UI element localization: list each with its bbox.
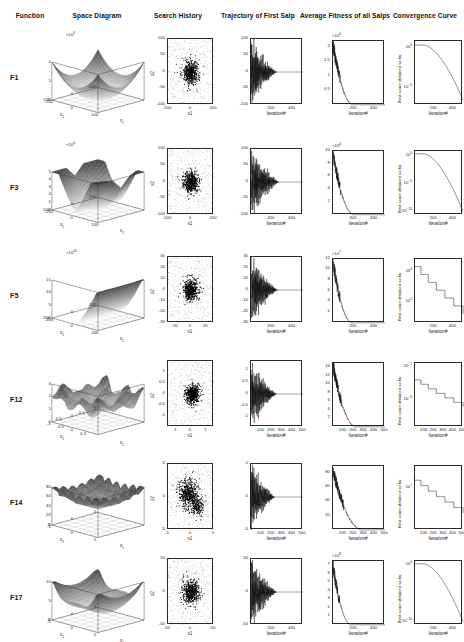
space-diagram-ytick: 0: [61, 202, 73, 206]
function-label-f14: F14: [10, 499, 23, 506]
average-fitness-ytick: 1.5: [310, 58, 330, 62]
space-diagram-ytick: -1: [84, 407, 96, 411]
trajectory-ytick: -50: [228, 85, 248, 89]
trajectory-xlabel: Iteration#: [250, 537, 302, 542]
trajectory-plot-area: [250, 463, 302, 529]
space-diagram-ytick: 100: [38, 98, 50, 102]
space-diagram-xtick: 0: [66, 216, 78, 220]
search-history-ylabel: x2: [151, 393, 156, 398]
average-fitness-ytick: 12: [310, 256, 330, 260]
search-history-f12: -1-0.500.51-101x1x2: [148, 356, 224, 454]
space-diagram-x2-label: x2: [60, 632, 64, 639]
convergence-xtick: 400: [445, 216, 459, 220]
space-diagram-ytick: -0.5: [73, 411, 85, 415]
average-fitness-ytick: 6: [310, 398, 330, 402]
average-fitness-xtick: 200: [346, 324, 360, 328]
search-history-plot-area: [167, 360, 213, 426]
convergence-xlabel: Iteration#: [414, 112, 462, 117]
space-diagram-xtick: 200: [89, 331, 101, 335]
average-fitness-ytick: 3: [310, 596, 330, 600]
convergence-xlabel: Iteration#: [414, 537, 462, 542]
convergence-f1: 10010−5200400Iteration#Best score obtain…: [392, 34, 464, 132]
trajectory-f3: -100-50050100200400Iteration#: [228, 144, 308, 242]
search-history-plot-area: [167, 558, 213, 624]
convergence-ylabel: Best score obtained so far: [398, 164, 402, 213]
average-fitness-ytick: 12: [310, 373, 330, 377]
space-diagram-ztick: 40: [41, 504, 51, 508]
trajectory-ytick: 0: [228, 69, 248, 73]
function-label-f12: F12: [10, 396, 23, 403]
search-history-xtick: 5: [205, 531, 221, 535]
column-header-convergence: Convergence Curve: [388, 12, 462, 19]
space-diagram-ztick: 3: [41, 382, 51, 386]
space-diagram-x2-label: x2: [60, 222, 64, 229]
trajectory-ytick: -0.5: [228, 403, 248, 407]
space-diagram-z-exponent: ×104: [66, 142, 75, 148]
space-diagram-xtick: 100: [89, 223, 101, 227]
space-diagram-xtick: 0: [66, 531, 78, 535]
function-row-f14: F14020406080-505-505x1x2-505-505x1x2-505…: [0, 455, 464, 550]
trajectory-xtick: 400: [285, 324, 299, 328]
space-diagram-ytick: -200: [84, 303, 96, 307]
function-row-f1: F1×104012-1000100-1000100x1x2-100-500501…: [0, 30, 464, 138]
average-fitness-ytick: 4: [310, 298, 330, 302]
search-history-ytick: -30: [148, 320, 165, 324]
space-diagram-ytick: 5: [38, 618, 50, 622]
average-fitness-xtick: 200: [346, 626, 360, 630]
space-diagram-f3: ×104012345-1000100-1000100x1x2: [58, 144, 144, 242]
space-diagram-xtick: 0: [66, 324, 78, 328]
trajectory-f14: -505100200300400500Iteration#: [228, 459, 308, 557]
search-history-xlabel: x1: [167, 632, 213, 637]
search-history-xtick: 0: [182, 216, 198, 220]
space-diagram-x2-label: x2: [60, 330, 64, 337]
average-fitness-ytick: 8: [310, 390, 330, 394]
trajectory-ytick: 100: [228, 36, 248, 40]
search-history-plot-area: [167, 38, 213, 104]
trajectory-ytick: -5: [228, 527, 248, 531]
trajectory-xtick: 500: [295, 428, 309, 432]
search-history-ytick: 5: [148, 461, 165, 465]
space-diagram-ytick: 0: [61, 517, 73, 521]
trajectory-plot-area: [250, 256, 302, 322]
search-history-ytick: -50: [148, 195, 165, 199]
search-history-ytick: 10: [148, 276, 165, 280]
search-history-xtick: 100: [205, 216, 221, 220]
convergence-xlabel: Iteration#: [414, 330, 462, 335]
space-diagram-ytick: 0: [61, 92, 73, 96]
trajectory-ytick: -1: [228, 414, 248, 418]
trajectory-ytick: 50: [228, 52, 248, 56]
column-header-row: Function Space Diagram Search History Tr…: [0, 12, 464, 30]
convergence-f12: 10−210−3100200300400500Iteration#Best sc…: [392, 356, 464, 454]
search-history-plot-area: [167, 148, 213, 214]
search-history-ytick: 1: [148, 369, 165, 373]
average-fitness-ytick: 5: [310, 579, 330, 583]
trajectory-ytick: -30: [228, 320, 248, 324]
average-fitness-ytick: 1: [310, 613, 330, 617]
trajectory-ytick: 1: [228, 367, 248, 371]
average-fitness-ytick: 7: [310, 562, 330, 566]
average-fitness-ytick: 10: [310, 266, 330, 270]
convergence-ylabel: Best score obtained so far: [398, 574, 402, 623]
search-history-ytick: -1: [148, 413, 165, 417]
function-label-f5: F5: [10, 292, 19, 299]
space-diagram-ytick: 0: [61, 612, 73, 616]
convergence-ylabel: Best score obtained so far: [398, 479, 402, 528]
function-row-f3: F3×104012345-1000100-1000100x1x2-100-500…: [0, 140, 464, 246]
space-diagram-x1-label: x1: [120, 336, 124, 343]
space-diagram-x1-label: x1: [120, 543, 124, 550]
trajectory-ytick: -10: [228, 298, 248, 302]
space-diagram-ztick: 10: [41, 580, 51, 584]
average-fitness-ytick: 6: [310, 288, 330, 292]
convergence-ylabel: Best score obtained so far: [398, 376, 402, 425]
search-history-xlabel: x1: [167, 330, 213, 335]
average-fitness-ytick: 80: [310, 470, 330, 474]
search-history-ylabel: x2: [151, 289, 156, 294]
search-history-ylabel: x2: [151, 591, 156, 596]
average-fitness-xtick: 400: [367, 626, 381, 630]
convergence-xtick: 400: [445, 106, 459, 110]
space-diagram-ytick: 200: [38, 316, 50, 320]
trajectory-xtick: 200: [264, 626, 278, 630]
space-diagram-ztick: 3: [41, 185, 51, 189]
column-header-average-fitness: Average Fitness of all Salps: [300, 12, 390, 19]
search-history-ytick: 20: [148, 265, 165, 269]
